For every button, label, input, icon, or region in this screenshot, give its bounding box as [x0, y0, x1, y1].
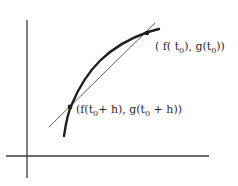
point-f-t0: [145, 31, 149, 35]
label-text: (f(t: [76, 103, 93, 116]
label-text: + h)): [150, 103, 182, 116]
diagram-canvas: [0, 0, 238, 186]
parametric-curve: [64, 29, 159, 136]
point-f-t0-plus-h: [68, 105, 73, 110]
label-point-t0-plus-h: (f(t0+ h), g(t0 + h)): [76, 104, 182, 115]
label-text: ( f( t: [155, 40, 179, 53]
label-text: + h), g(t: [98, 103, 145, 116]
secant-diagram: ( f( t0), g(t0)) (f(t0+ h), g(t0 + h)): [0, 0, 238, 186]
label-text: ), g(t: [184, 40, 211, 53]
label-point-t0: ( f( t0), g(t0)): [155, 41, 225, 52]
label-text: )): [216, 40, 225, 53]
